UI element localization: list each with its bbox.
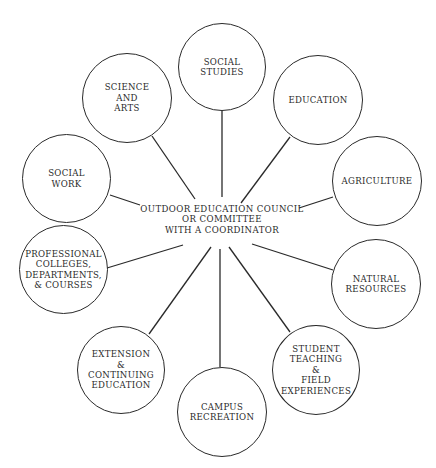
node-label: CAMPUS RECREATION <box>190 402 255 423</box>
node-agriculture: AGRICULTURE <box>332 136 422 226</box>
node-label: EDUCATION <box>288 95 347 105</box>
node-natural-resources: NATURAL RESOURCES <box>331 239 421 329</box>
connector-professional <box>107 245 183 268</box>
node-social-studies: SOCIAL STUDIES <box>178 23 266 111</box>
connector-education <box>241 137 290 203</box>
node-label: STUDENT TEACHING & FIELD EXPERIENCES <box>281 344 351 396</box>
node-label: SCIENCE AND ARTS <box>105 82 150 113</box>
node-label: EXTENSION & CONTINUING EDUCATION <box>88 349 154 391</box>
connector-student-teaching <box>229 247 290 332</box>
node-student-teaching: STUDENT TEACHING & FIELD EXPERIENCES <box>272 325 360 415</box>
node-social-work: SOCIAL WORK <box>22 134 111 223</box>
connector-natural-resources <box>252 244 333 270</box>
center-hub-label: OUTDOOR EDUCATION COUNCIL OR COMMITTEE W… <box>122 204 322 235</box>
node-label: NATURAL RESOURCES <box>346 274 407 295</box>
node-extension: EXTENSION & CONTINUING EDUCATION <box>77 326 165 414</box>
node-education: EDUCATION <box>273 55 363 145</box>
node-label: SOCIAL STUDIES <box>200 57 243 78</box>
node-label: SOCIAL WORK <box>48 168 85 189</box>
node-professional: PROFESSIONAL COLLEGES, DEPARTMENTS, & CO… <box>19 225 108 314</box>
node-campus-recreation: CAMPUS RECREATION <box>177 367 267 457</box>
connector-extension <box>149 247 211 334</box>
node-label: AGRICULTURE <box>342 176 413 186</box>
node-label: PROFESSIONAL COLLEGES, DEPARTMENTS, & CO… <box>25 249 102 291</box>
node-science-arts: SCIENCE AND ARTS <box>82 53 172 143</box>
connector-science-arts <box>152 136 195 199</box>
